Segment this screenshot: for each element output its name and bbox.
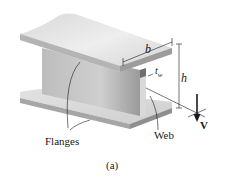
label-tw-sub: w <box>158 71 163 79</box>
shear-force-arrow <box>194 94 201 122</box>
tw-leader <box>148 74 153 76</box>
label-flanges: Flanges <box>45 136 79 147</box>
label-tw: tw <box>155 66 162 79</box>
label-v: V <box>200 120 208 131</box>
label-b: b <box>145 43 151 55</box>
label-h: h <box>181 72 187 84</box>
figure-caption: (a) <box>106 160 118 171</box>
label-web: Web <box>154 130 174 141</box>
